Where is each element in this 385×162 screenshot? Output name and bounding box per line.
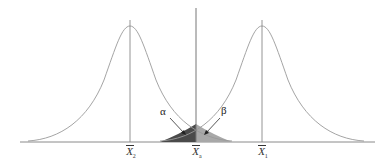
alpha-label: α	[160, 106, 166, 117]
critical-value-label: Xa	[187, 146, 207, 159]
beta-arrow	[206, 118, 220, 133]
critical-label-sub: a	[199, 153, 202, 159]
beta-label: β	[221, 105, 227, 116]
x1-label: X1	[253, 146, 273, 159]
x1-label-text: X	[258, 145, 265, 157]
diagram-canvas	[0, 0, 385, 162]
x2-label-text: X	[126, 145, 133, 157]
x1-label-sub: 1	[265, 153, 268, 159]
x2-label-sub: 2	[133, 153, 136, 159]
x2-label: X2	[121, 146, 141, 159]
alpha-arrow	[170, 118, 184, 133]
